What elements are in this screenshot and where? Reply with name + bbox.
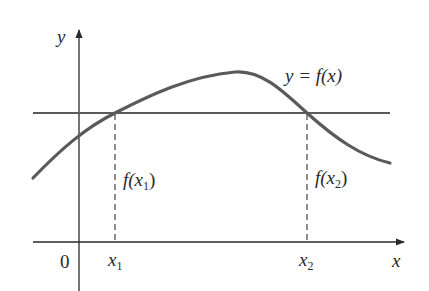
- origin-label: 0: [60, 251, 70, 272]
- y-axis-label: y: [55, 26, 66, 47]
- function-curve: [33, 72, 390, 178]
- f-x2-label: f(x2): [315, 167, 347, 191]
- f-x1-label: f(x1): [123, 169, 155, 193]
- x2-label: x2: [298, 249, 313, 273]
- function-graph-diagram: y x 0 y = f(x) x1 x2 f(x1) f(x2): [0, 0, 429, 291]
- curve-label: y = f(x): [283, 65, 342, 87]
- x-axis-label: x: [391, 250, 401, 271]
- x1-label: x1: [107, 249, 122, 273]
